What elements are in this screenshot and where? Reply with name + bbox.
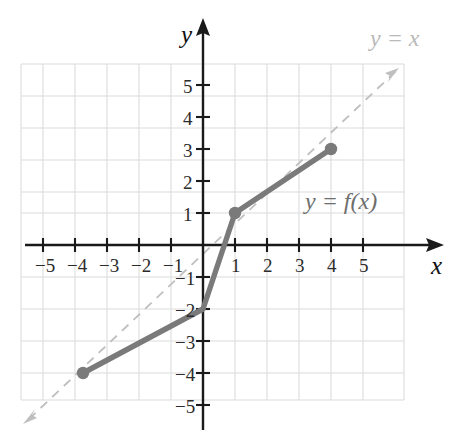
y-tick-label: −1 — [175, 269, 195, 288]
identity-line-label: y = x — [370, 26, 420, 50]
y-axis-label: y — [181, 22, 192, 47]
function-curve-label: y = f(x) — [305, 189, 377, 213]
x-tick-label: 4 — [327, 256, 337, 275]
y-tick-label: 4 — [183, 109, 193, 128]
x-tick-label: −5 — [35, 256, 55, 275]
y-tick-label: −5 — [175, 397, 195, 416]
coordinate-plane — [0, 0, 461, 440]
x-tick-label: −2 — [131, 256, 151, 275]
x-tick-label: 1 — [231, 256, 241, 275]
endpoint-marker — [325, 143, 337, 155]
x-tick-label: −3 — [99, 256, 119, 275]
function-curve-stroke — [83, 149, 331, 373]
y-tick-label: −3 — [175, 333, 195, 352]
graph-figure: y x y = x y = f(x) −5 −4 −3 −2 −1 1 2 3 … — [0, 0, 461, 440]
x-axis-label: x — [431, 253, 442, 278]
grid-lines — [21, 64, 404, 400]
y-tick-label: 3 — [183, 141, 193, 160]
vertex-marker — [229, 207, 241, 219]
identity-arrow-up-icon — [385, 68, 399, 82]
endpoint-marker — [77, 367, 89, 379]
x-tick-label: 2 — [263, 256, 273, 275]
x-tick-label: −4 — [67, 256, 87, 275]
y-tick-label: −4 — [175, 365, 195, 384]
y-tick-label: 2 — [183, 173, 193, 192]
y-tick-label: 5 — [183, 77, 193, 96]
x-tick-label: 3 — [295, 256, 305, 275]
x-tick-label: 5 — [359, 256, 369, 275]
y-tick-label: −2 — [175, 301, 195, 320]
identity-arrow-down-icon — [23, 409, 37, 424]
y-tick-label: 1 — [183, 205, 193, 224]
